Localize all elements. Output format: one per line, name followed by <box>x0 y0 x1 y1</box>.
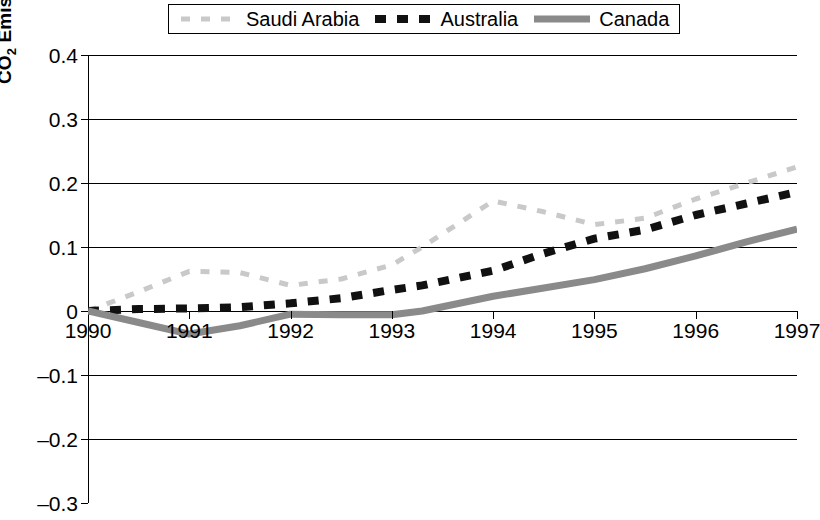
y-axis-title: CO2 Emissions Normalized to 1990 <box>0 0 19 84</box>
series-line-australia <box>88 192 797 311</box>
y-tick-label: –0.2 <box>37 429 78 450</box>
y-tick-label: –0.3 <box>37 493 78 514</box>
y-tick-mark <box>81 311 88 312</box>
y-axis-title-subscript: 2 <box>4 48 19 55</box>
y-tick-mark <box>81 439 88 440</box>
y-tick-label: –0.1 <box>37 365 78 386</box>
x-tick-mark <box>291 311 292 319</box>
y-axis-title-post: Emissions Normalized to 1990 <box>0 0 15 48</box>
x-tick-label: 1993 <box>368 320 415 341</box>
y-tick-label: 0.3 <box>49 109 78 130</box>
y-tick-label: 0.4 <box>49 45 78 66</box>
legend-entry-australia: Australia <box>373 9 518 29</box>
legend-key-dashed-line-black-icon <box>373 12 433 26</box>
legend-entry-canada: Canada <box>532 9 669 29</box>
x-tick-label: 1994 <box>470 320 517 341</box>
y-tick-mark <box>81 375 88 376</box>
legend-key-dashed-line-light-gray-icon <box>179 12 239 26</box>
y-tick-mark <box>81 183 88 184</box>
x-tick-label: 1995 <box>571 320 618 341</box>
legend-label-canada: Canada <box>599 9 669 29</box>
legend-key-solid-line-gray-icon <box>532 12 592 26</box>
x-tick-label: 1991 <box>166 320 213 341</box>
y-axis-title-pre: CO <box>0 55 15 84</box>
x-tick-label: 1996 <box>672 320 719 341</box>
y-tick-mark <box>81 119 88 120</box>
x-tick-mark <box>594 311 595 319</box>
x-tick-label: 1990 <box>65 320 112 341</box>
chart-figure: Saudi Arabia Australia Canada CO2 Emissi… <box>0 0 820 520</box>
y-tick-mark <box>81 55 88 56</box>
x-tick-mark <box>493 311 494 319</box>
x-tick-mark <box>696 311 697 319</box>
series-line-saudi-arabia <box>88 167 797 311</box>
y-tick-mark <box>81 503 88 504</box>
x-tick-label: 1997 <box>774 320 820 341</box>
legend-label-australia: Australia <box>440 9 518 29</box>
x-tick-mark <box>392 311 393 319</box>
x-tick-label: 1992 <box>267 320 314 341</box>
chart-legend: Saudi Arabia Australia Canada <box>168 4 680 34</box>
legend-label-saudi-arabia: Saudi Arabia <box>246 9 359 29</box>
plot-area: 0.40.30.20.10–0.1–0.2–0.3 19901991199219… <box>88 55 797 503</box>
x-tick-mark <box>189 311 190 319</box>
y-tick-label: 0.2 <box>49 173 78 194</box>
plot-canvas <box>88 55 797 503</box>
y-tick-mark <box>81 247 88 248</box>
x-tick-mark <box>797 311 798 319</box>
legend-entry-saudi-arabia: Saudi Arabia <box>179 9 359 29</box>
y-tick-label: 0.1 <box>49 237 78 258</box>
